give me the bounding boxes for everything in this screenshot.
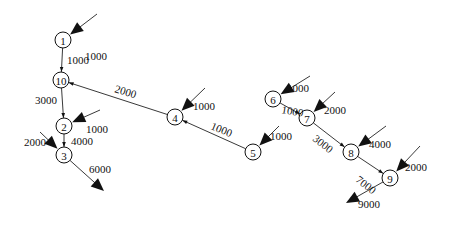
node-label: 4 [172, 112, 178, 124]
node-label: 7 [304, 113, 310, 125]
node-label: 1 [60, 35, 66, 47]
node-10: 10 [53, 72, 69, 88]
edge-flow-label: 7000 [354, 173, 379, 196]
outflow-arrowhead-icon [91, 178, 104, 191]
outflow-label: 9000 [358, 198, 381, 210]
edge-flow-label: 3000 [35, 94, 58, 106]
inflow-label: 1000 [270, 130, 293, 142]
node-label: 6 [270, 94, 276, 106]
node-label: 3 [61, 150, 67, 162]
node-label: 9 [387, 173, 393, 185]
node-3: 3 [56, 147, 72, 163]
inflow-label: 1000 [85, 50, 108, 62]
node-5: 5 [245, 144, 261, 160]
edge-arrowhead-icon [182, 120, 187, 124]
node-6: 6 [265, 91, 281, 107]
edge-flow-label: 1000 [281, 103, 305, 119]
edge-arrowhead-icon [378, 169, 383, 173]
node-label: 2 [61, 121, 67, 133]
inflow-label: 2000 [24, 136, 47, 148]
node-label: 8 [348, 147, 354, 159]
edge-flow-label: 3000 [311, 132, 336, 155]
outflow-label: 6000 [89, 163, 112, 175]
node-label: 5 [250, 147, 256, 159]
edge-arrowhead-icon [62, 142, 66, 147]
node-8: 8 [343, 144, 359, 160]
edge-arrowhead-icon [69, 82, 74, 85]
flow-network-diagram: 11023456789 1000300040002000100010003000… [0, 0, 452, 226]
inflow-label: 1000 [287, 82, 310, 94]
node-label: 10 [56, 75, 68, 87]
inflow-label: 1000 [193, 100, 216, 112]
edge-flow-label: 4000 [71, 135, 94, 147]
inflow-arrowhead-icon [70, 22, 84, 34]
inflow-label: 4000 [369, 138, 392, 150]
inflow-label: 1000 [86, 123, 109, 135]
node-2: 2 [56, 118, 72, 134]
edge-arrowhead-icon [60, 67, 64, 72]
edge-arrowhead-icon [61, 113, 65, 118]
inflow-label: 2000 [405, 161, 428, 173]
edge-flow-label: 1000 [209, 120, 234, 140]
node-1: 1 [55, 32, 71, 48]
node-9: 9 [382, 170, 398, 186]
inflow-label: 2000 [324, 104, 347, 116]
node-4: 4 [167, 109, 183, 125]
